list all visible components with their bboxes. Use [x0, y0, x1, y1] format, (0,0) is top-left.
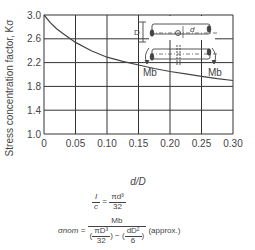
moment-label-left: Mb [143, 67, 157, 78]
formula-nominal-stress: σnom = Mb(πD³32) − (dD²6) (approx.) [58, 217, 180, 245]
x-axis-label: d/D [130, 176, 146, 187]
d-label: d [190, 25, 195, 34]
thirty-two-label: 32 [109, 203, 126, 212]
y-tick-label: 2.2 [27, 57, 41, 68]
y-axis-ticks: 1.01.41.82.22.63.0 [27, 10, 41, 140]
approx-note: (approx.) [148, 226, 180, 235]
inset-diagram: d D Mb Mb [134, 16, 222, 78]
x-tick-label: 0.30 [223, 138, 243, 149]
x-tick-label: 0.15 [129, 138, 149, 149]
x-tick-label: 0.20 [160, 138, 180, 149]
c-label: c [92, 203, 100, 212]
formula-section-modulus: Ic = πd³32 [92, 193, 126, 212]
y-tick-label: 1.8 [27, 81, 41, 92]
sigma-nom-label: σnom [58, 226, 78, 235]
stress-concentration-chart: 1.01.41.82.22.63.0 00.050.100.150.200.25… [0, 0, 255, 190]
D-label: D [134, 28, 140, 37]
six-label: 6 [125, 237, 142, 246]
x-tick-label: 0 [41, 138, 47, 149]
y-tick-label: 1.0 [27, 129, 41, 140]
x-tick-label: 0.25 [192, 138, 212, 149]
x-axis-ticks: 00.050.100.150.200.250.30 [41, 138, 243, 149]
y-tick-label: 3.0 [27, 10, 41, 21]
y-axis-label: Stress concentration factor, Kσ [4, 19, 15, 157]
moment-label-right: Mb [208, 67, 222, 78]
y-tick-label: 1.4 [27, 105, 41, 116]
y-tick-label: 2.6 [27, 33, 41, 44]
thirty-two-label-2: 32 [92, 237, 110, 246]
x-tick-label: 0.05 [66, 138, 86, 149]
x-tick-label: 0.10 [97, 138, 117, 149]
bar-end-right-icon [207, 26, 211, 32]
